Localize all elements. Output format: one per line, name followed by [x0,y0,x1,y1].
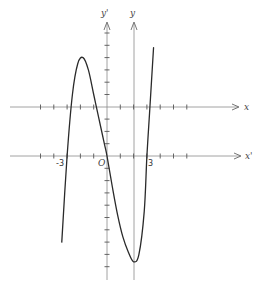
x-prime-axis-label: x' [245,151,253,161]
tick-label-3: 3 [148,159,153,168]
x-axis-label: x [244,102,249,112]
y-axis-label: y [129,8,136,18]
y-prime-axis-label: y' [100,8,109,18]
cubic-function-graph: x' x y' y -3 O 3 [0,0,266,286]
tick-label-minus-3: -3 [56,159,64,168]
origin-label: O [98,158,106,168]
